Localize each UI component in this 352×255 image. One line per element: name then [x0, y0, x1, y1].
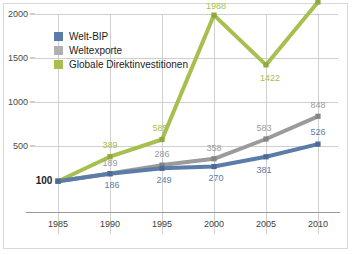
legend-item-welt-bip: Welt-BIP — [54, 31, 188, 42]
x-tick-label-1985: 1985 — [48, 219, 68, 229]
data-label-green-2005: 1422 — [260, 73, 280, 83]
legend-swatch-icon-weltexporte — [54, 46, 63, 55]
y-axis: 2000 1500 1000 500 — [0, 14, 28, 212]
x-tick-label-1990: 1990 — [100, 219, 120, 229]
legend-swatch-icon-globale-direktinvestitionen — [54, 60, 63, 69]
data-label-blue-1995: 249 — [156, 175, 171, 185]
data-label-gray-1990: 189 — [102, 158, 117, 168]
x-axis: 1985 1990 1995 2000 2005 2010 — [32, 219, 338, 235]
x-axis-line — [26, 212, 340, 213]
marker-blue-1995 — [159, 166, 164, 171]
marker-blue-1985 — [55, 179, 60, 184]
data-label-blue-2010: 526 — [310, 127, 325, 137]
legend-label-welt-bip: Welt-BIP — [69, 31, 108, 42]
x-tick-label-2010: 2010 — [308, 219, 328, 229]
chart-figure: 2000 1500 1000 500 — [0, 0, 352, 255]
y-tick-label-1500: 1500 — [8, 53, 28, 63]
marker-blue-2010 — [315, 142, 320, 147]
marker-green-2000 — [211, 13, 216, 18]
marker-gray-2000 — [211, 156, 216, 161]
y-tick-label-1000: 1000 — [8, 97, 28, 107]
data-label-gray-2010: 848 — [310, 100, 325, 110]
legend-swatch-icon-welt-bip — [54, 32, 63, 41]
data-label-blue-1990: 186 — [104, 180, 119, 190]
marker-gray-2005 — [263, 136, 268, 141]
data-label-green-1990: 389 — [102, 140, 117, 150]
data-label-origin-100: 100 — [36, 175, 53, 186]
y-tick-label-500: 500 — [13, 141, 28, 151]
data-label-blue-2005: 381 — [256, 165, 271, 175]
data-label-blue-2000: 270 — [208, 173, 223, 183]
marker-green-2005 — [263, 62, 268, 67]
x-tick-label-1995: 1995 — [152, 219, 172, 229]
data-label-gray-1995: 286 — [154, 149, 169, 159]
chart-legend: Welt-BIP Weltexporte Globale Direktinves… — [54, 31, 188, 70]
marker-blue-2000 — [211, 164, 216, 169]
line-weltexporte — [58, 116, 318, 181]
marker-gray-2010 — [315, 114, 320, 119]
data-label-green-2000: 1988 — [206, 1, 226, 11]
x-tick-label-2005: 2005 — [256, 219, 276, 229]
data-label-gray-2005: 583 — [256, 123, 271, 133]
data-label-gray-2000: 358 — [206, 143, 221, 153]
marker-green-1995 — [159, 137, 164, 142]
legend-label-weltexporte: Weltexporte — [69, 45, 122, 56]
marker-green-2010 — [315, 0, 320, 5]
legend-item-weltexporte: Weltexporte — [54, 45, 188, 56]
x-tick-label-2000: 2000 — [204, 219, 224, 229]
legend-label-globale-direktinvestitionen: Globale Direktinvestitionen — [69, 59, 188, 70]
marker-blue-1990 — [107, 171, 112, 176]
y-tick-label-2000: 2000 — [8, 9, 28, 19]
legend-item-globale-direktinvestitionen: Globale Direktinvestitionen — [54, 59, 188, 70]
data-label-green-1995: 585 — [152, 123, 167, 133]
marker-blue-2005 — [263, 154, 268, 159]
